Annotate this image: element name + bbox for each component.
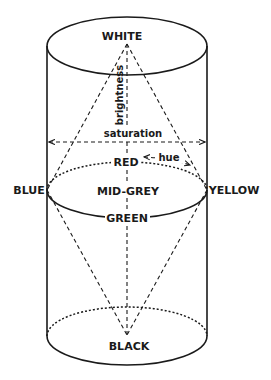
label-blue: BLUE: [13, 184, 44, 197]
label-red: RED: [113, 156, 138, 169]
label-yellow: YELLOW: [208, 184, 260, 197]
label-hue: hue: [158, 152, 179, 163]
cone-line-white-yellow: [127, 44, 207, 190]
label-white: WHITE: [102, 30, 142, 43]
label-saturation: saturation: [104, 128, 162, 139]
label-black: BLACK: [109, 340, 150, 353]
label-green: GREEN: [106, 212, 148, 225]
color-model-diagram: WHITE BLACK BLUE YELLOW MID-GREY RED GRE…: [0, 0, 271, 380]
label-mid-grey: MID-GREY: [97, 185, 160, 198]
label-brightness: brightness: [114, 65, 125, 125]
